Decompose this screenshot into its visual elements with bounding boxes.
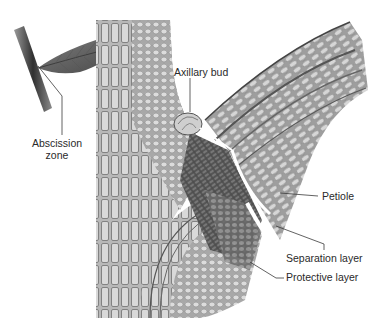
- label-separation-layer: Separation layer: [286, 252, 362, 264]
- label-protective-layer: Protective layer: [286, 271, 358, 283]
- label-petiole: Petiole: [322, 190, 354, 202]
- leader-protective-layer: [250, 262, 284, 278]
- label-abscission-line2: zone: [26, 149, 88, 161]
- label-abscission-line1: Abscission: [26, 137, 88, 149]
- label-axillary-bud: Axillary bud: [174, 66, 228, 78]
- label-abscission-zone: Abscission zone: [26, 137, 88, 161]
